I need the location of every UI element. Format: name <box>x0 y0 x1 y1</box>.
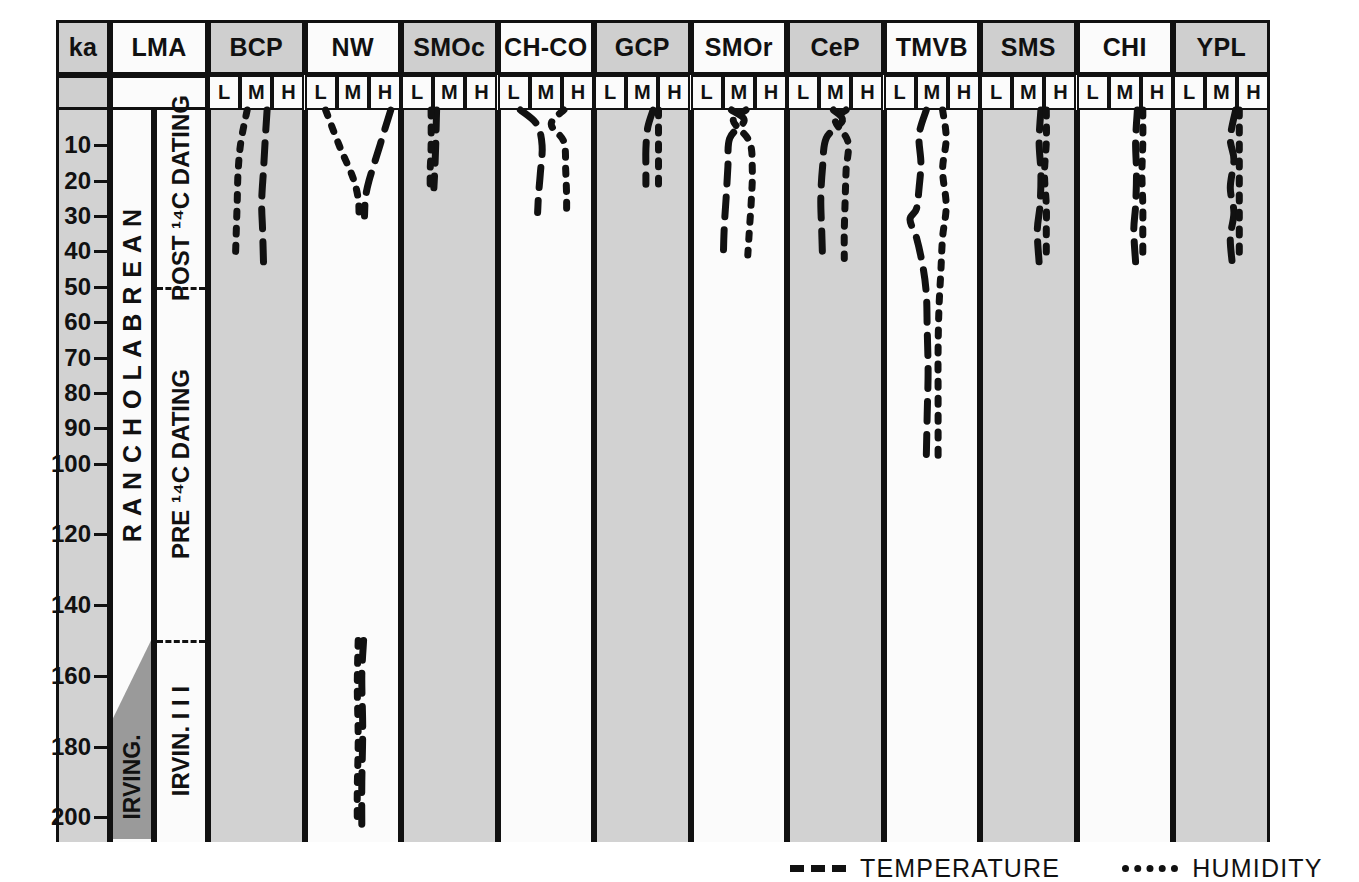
temperature-curve-sms <box>1037 110 1041 262</box>
dotted-line-icon <box>1122 865 1178 872</box>
temperature-curve-nw <box>365 110 391 216</box>
humidity-curve-chi <box>1142 110 1143 262</box>
dashed-line-icon <box>790 865 846 872</box>
humidity-curve-lower-nw <box>357 640 358 824</box>
humidity-curve-ch-co <box>551 110 566 213</box>
temperature-curve-chi <box>1134 110 1138 262</box>
legend-item-humidity: HUMIDITY <box>1122 854 1322 882</box>
temperature-curve-tmvb <box>910 110 928 457</box>
temperature-curve-cep <box>821 110 843 259</box>
humidity-curve-bcp <box>235 110 247 259</box>
temperature-curve-ch-co <box>520 110 542 213</box>
humidity-curve-sms <box>1045 110 1047 262</box>
temperature-curve-lower-nw <box>362 640 364 824</box>
legend-item-temperature: TEMPERATURE <box>790 854 1060 882</box>
temperature-curve-ypl <box>1230 110 1235 262</box>
humidity-curve-nw <box>326 110 360 216</box>
legend: TEMPERATUREHUMIDITY <box>790 850 1359 882</box>
humidity-curve-tmvb <box>938 110 946 457</box>
humidity-curve-cep <box>835 110 848 259</box>
temperature-curve-gcp <box>646 110 653 184</box>
temperature-curve-bcp <box>262 110 267 262</box>
humidity-curve-smoc <box>430 110 431 188</box>
legend-label-temperature: TEMPERATURE <box>860 854 1060 882</box>
climate-curves-layer <box>0 0 1359 882</box>
paleoclimate-chart: kaLMABCPLMHNWLMHSMOcLMHCH-COLMHGCPLMHSMO… <box>0 0 1359 882</box>
legend-label-humidity: HUMIDITY <box>1192 854 1322 882</box>
